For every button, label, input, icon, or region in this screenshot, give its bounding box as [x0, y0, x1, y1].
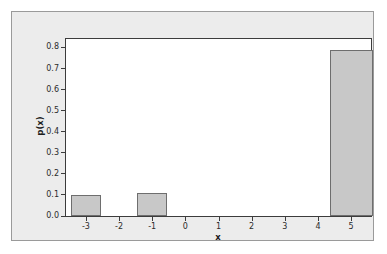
x-axis-tick-label: -2 [115, 222, 123, 231]
bar [137, 193, 168, 216]
x-axis-tick-mark [285, 217, 286, 221]
chart-figure: p(x) 0.00.10.20.30.40.50.60.70.8 -3-2-10… [0, 0, 387, 254]
x-axis-tick-label: 3 [282, 222, 287, 231]
x-axis-tick-label: 2 [249, 222, 254, 231]
y-axis-tick-label: 0.8 [46, 42, 59, 52]
x-axis-tick-mark [351, 217, 352, 221]
x-axis-tick-label: 4 [315, 222, 320, 231]
y-axis-tick-label: 0.7 [46, 64, 59, 74]
x-axis-tick-mark [86, 217, 87, 221]
y-axis-tick-label: 0.5 [46, 106, 59, 116]
y-axis-tick-label: 0.2 [46, 169, 59, 179]
x-axis-tick-mark [185, 217, 186, 221]
figure-panel: p(x) 0.00.10.20.30.40.50.60.70.8 -3-2-10… [11, 11, 374, 241]
x-axis-tick-mark [219, 217, 220, 221]
y-axis: 0.00.10.20.30.40.50.60.70.8 [12, 12, 65, 240]
x-axis-tick-mark [318, 217, 319, 221]
x-axis-tick-label: 0 [183, 222, 188, 231]
y-axis-tick-label: 0.4 [46, 127, 59, 137]
x-axis-tick-label: 1 [216, 222, 221, 231]
bar [71, 195, 102, 216]
bar [330, 50, 373, 216]
x-axis-tick-label: -3 [82, 222, 90, 231]
bars-layer [66, 39, 371, 216]
x-axis-tick-mark [252, 217, 253, 221]
x-axis-tick-label: 5 [349, 222, 354, 231]
x-axis-title: x [215, 232, 220, 242]
x-axis-tick-mark [152, 217, 153, 221]
y-axis-tick-label: 0.1 [46, 190, 59, 200]
x-axis-tick-mark [119, 217, 120, 221]
y-axis-tick-label: 0.3 [46, 148, 59, 158]
x-axis-tick-label: -1 [148, 222, 156, 231]
plot-area [65, 38, 372, 217]
x-axis: -3-2-1012345 [12, 217, 373, 237]
y-axis-tick-label: 0.6 [46, 85, 59, 95]
